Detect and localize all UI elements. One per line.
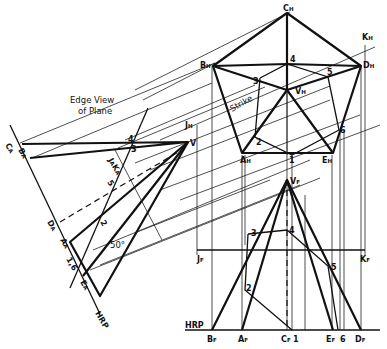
svg-text:VH: VH [295, 87, 306, 96]
svg-text:6: 6 [340, 335, 346, 344]
svg-text:JH: JH [184, 121, 193, 130]
svg-text:4: 4 [289, 226, 295, 235]
labels: Edge View of Plane Strike 50° HRP HRP CH… [3, 4, 374, 344]
svg-text:JAKA: JAKA [106, 156, 124, 177]
svg-text:1: 1 [293, 335, 299, 344]
svg-text:AF: AF [238, 335, 248, 344]
svg-text:CH: CH [283, 4, 294, 13]
svg-text:DH: DH [363, 61, 375, 70]
svg-text:V: V [190, 139, 197, 148]
svg-text:KH: KH [362, 33, 373, 42]
svg-text:BH: BH [200, 61, 211, 70]
svg-text:4: 4 [128, 135, 134, 144]
svg-text:HRP: HRP [93, 310, 110, 331]
svg-text:EH: EH [322, 156, 332, 165]
svg-text:EA: EA [78, 279, 91, 293]
svg-text:1: 1 [289, 156, 295, 165]
svg-text:BF: BF [207, 335, 217, 344]
svg-text:4: 4 [290, 55, 296, 64]
auxiliary-view [10, 108, 188, 314]
svg-text:of Plane: of Plane [78, 106, 112, 116]
svg-text:3: 3 [253, 77, 259, 86]
top-view [213, 13, 361, 155]
svg-text:KF: KF [360, 255, 370, 264]
svg-text:6: 6 [340, 126, 346, 135]
svg-text:3: 3 [131, 145, 137, 154]
svg-text:3: 3 [251, 229, 257, 238]
orthographic-projection-diagram: Edge View of Plane Strike 50° HRP HRP CH… [0, 0, 387, 349]
svg-text:2: 2 [246, 284, 252, 293]
svg-text:DA: DA [45, 219, 59, 234]
svg-text:AH: AH [240, 156, 251, 165]
svg-text:DF: DF [355, 335, 366, 344]
svg-text:EF: EF [326, 335, 335, 344]
svg-text:Edge View: Edge View [70, 95, 114, 105]
svg-text:5: 5 [331, 263, 337, 272]
svg-text:CF: CF [281, 335, 291, 344]
svg-text:50°: 50° [110, 240, 125, 250]
svg-text:5: 5 [327, 68, 333, 77]
drawing-canvas: Edge View of Plane Strike 50° HRP HRP CH… [0, 0, 387, 349]
projection-lines [20, 12, 380, 270]
svg-text:JF: JF [196, 255, 204, 264]
svg-text:BA: BA [16, 147, 29, 161]
svg-text:VF: VF [290, 177, 300, 186]
svg-text:CA: CA [3, 142, 16, 156]
svg-text:Strike: Strike [228, 93, 254, 114]
svg-text:2: 2 [256, 138, 262, 147]
svg-text:HRP: HRP [185, 321, 204, 330]
front-view [185, 180, 380, 330]
